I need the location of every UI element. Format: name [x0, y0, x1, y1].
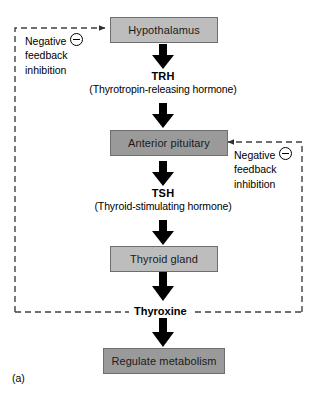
arrow-hypothalamus-to-trh [152, 44, 174, 69]
feedback-left-line1-row: Negative [25, 33, 83, 48]
feedback-right-line1: Negative [234, 149, 275, 161]
feedback-note-left: Negative feedback inhibition [25, 33, 83, 77]
node-hypothalamus-label: Hypothalamus [128, 25, 200, 36]
feedback-note-right: Negative feedback inhibition [234, 147, 292, 191]
feedback-left-line1: Negative [25, 35, 66, 47]
minus-sign-icon [279, 147, 292, 160]
node-hypothalamus: Hypothalamus [110, 17, 218, 43]
node-anterior-pituitary-label: Anterior pituitary [128, 138, 210, 149]
arrow-anterior-pituitary-to-tsh [152, 161, 174, 186]
arrow-tsh-to-thyroid-gland [152, 220, 174, 245]
feedback-right-line3: inhibition [234, 177, 292, 191]
arrow-thyroid-gland-to-thyroxine [152, 272, 174, 301]
arrow-trh-to-anterior-pituitary [152, 103, 174, 128]
minus-sign-icon [70, 33, 83, 46]
thyroxine-label: Thyroxine [129, 306, 192, 317]
arrow-thyroxine-to-regulate-metabolism [152, 318, 174, 347]
feedback-left-line3: inhibition [25, 63, 83, 77]
trh-full-name: (Thyrotropin-releasing hormone) [41, 83, 285, 95]
tsh-full-name: (Thyroid-stimulating hormone) [41, 200, 285, 212]
node-anterior-pituitary: Anterior pituitary [110, 130, 228, 156]
node-thyroid-gland: Thyroid gland [110, 246, 218, 272]
node-regulate-metabolism-label: Regulate metabolism [111, 356, 216, 367]
node-thyroid-gland-label: Thyroid gland [130, 254, 198, 265]
node-regulate-metabolism: Regulate metabolism [103, 348, 225, 374]
feedback-left-line2: feedback [25, 48, 83, 62]
feedback-right-line2: feedback [234, 162, 292, 176]
panel-caption: (a) [12, 373, 25, 384]
feedback-right-line1-row: Negative [234, 147, 292, 162]
thyroid-axis-diagram: Hypothalamus Anterior pituitary Thyroid … [0, 0, 322, 395]
